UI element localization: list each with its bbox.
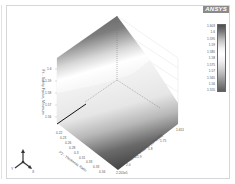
colorbar-label: 1.555	[200, 88, 215, 92]
colorbar-label: 1.603	[200, 24, 215, 28]
colorbar-label: 1.58	[200, 56, 215, 60]
x-tick: 0.23	[60, 136, 66, 140]
y-tick: 2.0	[126, 163, 130, 167]
y-tick: 1.651	[176, 128, 184, 132]
z-tick: 1.56	[45, 115, 51, 119]
z-tick: 1.6	[47, 67, 51, 71]
colorbar-label: 1.56	[200, 82, 215, 86]
x-tick: 0.26	[65, 141, 71, 145]
x-tick: 0.28	[69, 146, 75, 150]
colorbar-label: 1.565	[200, 76, 215, 80]
x-tick: 0.33	[86, 160, 92, 164]
x-tick: 0.22	[56, 131, 62, 135]
colorbar-label: 1.57	[200, 69, 215, 73]
orientation-triad-icon[interactable]: Y X	[10, 148, 36, 174]
y-tick: 1.75	[160, 139, 166, 143]
x-tick: 0.31	[79, 156, 85, 160]
axis-ticks	[55, 69, 57, 117]
z-tick: 1.58	[45, 91, 51, 95]
x-tick: 0.33	[93, 165, 99, 169]
colorbar-label: 1.6	[200, 30, 215, 34]
x-tick: 0.3	[74, 151, 78, 155]
z-tick: 1.59	[45, 79, 51, 83]
colorbar-label: 1.595	[200, 37, 215, 41]
colorbar-label: 1.59	[200, 43, 215, 47]
colorbar	[217, 24, 226, 92]
z-axis-title: Fit - Safety Factor, Minimum	[41, 70, 45, 115]
y-tick: 2.201e5	[116, 171, 128, 175]
svg-text:Y: Y	[11, 167, 14, 171]
z-tick: 1.57	[45, 103, 51, 107]
x-tick: 0.34	[99, 170, 105, 174]
colorbar-label: 1.575	[200, 63, 215, 67]
colorbar-label: 1.585	[200, 50, 215, 54]
svg-text:X: X	[32, 170, 35, 174]
